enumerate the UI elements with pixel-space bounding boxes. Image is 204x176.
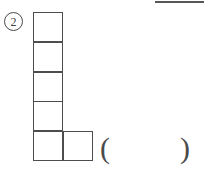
item-number-badge: 2 [4, 12, 23, 31]
item-number-label: 2 [11, 16, 17, 28]
answer-blank-close-paren: ) [180, 133, 190, 163]
page-divider-rule [155, 1, 204, 3]
grid-cell [63, 131, 93, 161]
worksheet-canvas: 2 ( ) [0, 0, 204, 176]
grid-cell [33, 101, 63, 131]
grid-cell [33, 42, 63, 72]
grid-cell [33, 12, 63, 42]
answer-blank-open-paren: ( [100, 133, 110, 163]
grid-cell [33, 72, 63, 102]
grid-cell [33, 131, 63, 161]
polyomino-figure [33, 12, 93, 161]
